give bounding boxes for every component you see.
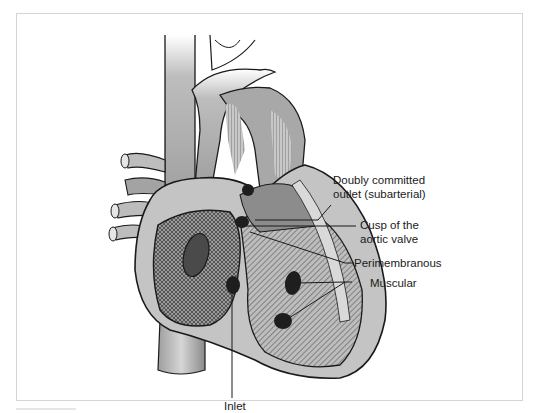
label-line: outlet (subarterial) — [333, 187, 426, 201]
label-line: Doubly committed — [333, 173, 426, 187]
label-inlet: Inlet — [224, 399, 246, 413]
doubly-committed-defect — [242, 184, 254, 196]
superior-vena-cava — [165, 35, 195, 200]
label-muscular: Muscular — [370, 276, 417, 290]
muscular-defect-lower — [274, 313, 292, 329]
label-cusp-aortic-valve: Cusp of the aortic valve — [360, 218, 419, 246]
inlet-defect — [226, 276, 240, 294]
label-line: aortic valve — [360, 232, 419, 246]
heart-illustration — [0, 0, 540, 413]
label-perimembranous: Perimembranous — [354, 256, 442, 270]
label-line: Cusp of the — [360, 218, 419, 232]
label-doubly-committed: Doubly committed outlet (subarterial) — [333, 173, 426, 201]
